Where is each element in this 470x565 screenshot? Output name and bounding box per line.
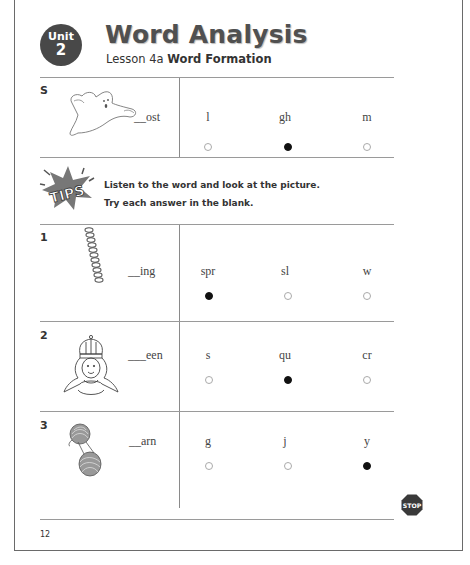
sample-bubble-2-selected[interactable] — [284, 143, 292, 151]
question-2-choice-3: cr — [347, 348, 387, 363]
lesson-name: Word Formation — [167, 52, 271, 66]
sample-bubble-1[interactable] — [204, 143, 212, 151]
question-3-bubble-2[interactable] — [284, 462, 292, 470]
svg-text:STOP: STOP — [403, 502, 422, 509]
question-3-bubble-3-selected[interactable] — [363, 462, 371, 470]
question-1-choice-2: sl — [265, 264, 305, 279]
question-1-number: 1 — [40, 231, 48, 244]
question-2-bubble-1[interactable] — [205, 376, 213, 384]
question-2-number: 2 — [40, 329, 48, 342]
question-3-choice-1: g — [188, 434, 228, 449]
sample-bubble-3[interactable] — [363, 143, 371, 151]
column-divider-items — [179, 225, 180, 508]
question-2-bubble-2-selected[interactable] — [284, 376, 292, 384]
divider-item-1 — [40, 321, 394, 322]
divider-bottom — [40, 519, 394, 520]
divider-after-tips — [40, 224, 394, 225]
question-2-choice-1: s — [188, 348, 228, 363]
divider-item-2 — [40, 411, 394, 412]
question-3-choice-2: j — [265, 434, 305, 449]
tips-star-icon: TIPS — [36, 164, 98, 212]
question-2-word: ___een — [128, 348, 163, 363]
question-1-bubble-3[interactable] — [363, 292, 371, 300]
lesson-prefix: Lesson 4a — [106, 52, 164, 66]
tips-line-2: Try each answer in the blank. — [104, 198, 253, 208]
ghost-icon — [62, 83, 140, 139]
question-1-choice-1: spr — [188, 264, 228, 279]
lesson-subtitle: Lesson 4a Word Formation — [106, 52, 272, 66]
yarn-icon — [66, 422, 106, 478]
stop-sign-icon: STOP — [401, 494, 423, 516]
divider-after-sample — [40, 157, 394, 158]
spring-icon — [84, 226, 106, 286]
unit-badge: Unit 2 — [40, 24, 82, 66]
sample-choice-1: l — [188, 110, 228, 125]
divider-top — [40, 77, 394, 78]
column-divider-sample — [179, 78, 180, 157]
sample-choice-2: gh — [265, 110, 305, 125]
sample-label: S — [40, 84, 48, 97]
question-1-choice-3: w — [347, 264, 387, 279]
sample-choice-3: m — [347, 110, 387, 125]
question-1-word: __ing — [128, 264, 155, 279]
question-3-number: 3 — [40, 419, 48, 432]
tips-line-1: Listen to the word and look at the pictu… — [104, 180, 320, 190]
question-1-bubble-2[interactable] — [284, 292, 292, 300]
question-3-word: __arn — [129, 434, 156, 449]
queen-icon — [60, 334, 122, 398]
question-2-choice-2: qu — [265, 348, 305, 363]
question-1-bubble-1-selected[interactable] — [205, 292, 213, 300]
page-title: Word Analysis — [105, 20, 308, 49]
page-number: 12 — [40, 530, 50, 539]
question-3-choice-3: y — [347, 434, 387, 449]
question-3-bubble-1[interactable] — [205, 462, 213, 470]
unit-number: 2 — [40, 43, 82, 58]
question-2-bubble-3[interactable] — [363, 376, 371, 384]
sample-word: __ost — [134, 110, 160, 125]
